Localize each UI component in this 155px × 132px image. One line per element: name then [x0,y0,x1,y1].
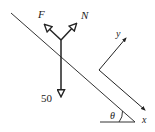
normal-label: N [80,9,89,21]
angle-label: θ [110,110,115,121]
coordinate-axes [99,38,145,110]
force-diagram [45,24,76,96]
normal-vector [61,24,76,40]
friction-vector [45,25,61,40]
y-axis-label: y [115,28,121,39]
y-axis [99,38,126,70]
x-axis-label: x [141,114,147,125]
friction-label: F [37,8,45,20]
x-axis [99,70,145,110]
angle-arc [119,111,123,122]
inclined-plane-diagram: F N 50 y x θ [0,0,155,132]
weight-label: 50 [41,92,53,104]
